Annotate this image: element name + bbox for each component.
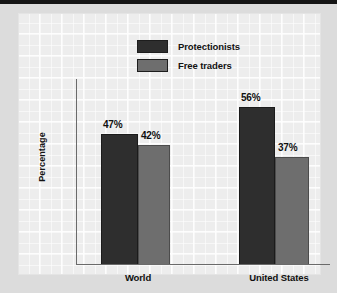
bar-united-states-free-traders [275, 157, 309, 265]
chart-plate: Protectionists Free traders Percentage 4… [19, 14, 320, 274]
chart-legend: Protectionists Free traders [137, 39, 240, 77]
bar-world-free-traders [138, 145, 170, 265]
y-axis-line [76, 79, 77, 265]
legend-swatch-icon-free-traders [137, 59, 168, 72]
value-label-united-states-protectionists: 56% [241, 92, 260, 103]
bar-united-states-protectionists [239, 107, 275, 265]
value-label-world-free-traders: 42% [141, 130, 160, 141]
legend-label-protectionists: Protectionists [178, 41, 240, 52]
y-axis-title: Percentage [37, 132, 47, 182]
legend-item-free-traders: Free traders [137, 58, 240, 73]
category-label-united-states: United States [231, 272, 327, 283]
chart-screenshot: Protectionists Free traders Percentage 4… [0, 0, 337, 293]
value-label-united-states-free-traders: 37% [278, 142, 297, 153]
legend-item-protectionists: Protectionists [137, 39, 240, 54]
legend-swatch-icon-protectionists [137, 40, 168, 53]
x-axis-line [76, 264, 330, 265]
value-label-world-protectionists: 47% [103, 119, 122, 130]
legend-label-free-traders: Free traders [178, 60, 232, 71]
category-label-world: World [105, 272, 171, 283]
bar-world-protectionists [101, 134, 138, 265]
